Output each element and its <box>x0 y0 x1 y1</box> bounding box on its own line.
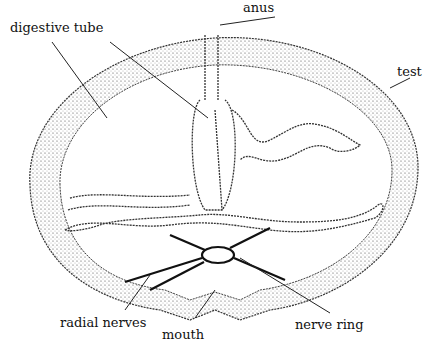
label-test: test <box>397 64 422 79</box>
label-mouth: mouth <box>162 327 204 342</box>
label-radial-nerves: radial nerves <box>60 315 146 330</box>
sea-urchin-diagram: anus digestive tube test radial nerves m… <box>0 0 433 350</box>
label-anus: anus <box>243 0 274 15</box>
test-shell <box>30 38 418 320</box>
label-nerve-ring: nerve ring <box>295 317 364 332</box>
label-digestive-tube: digestive tube <box>10 20 103 35</box>
diagram-drawing <box>0 0 433 350</box>
